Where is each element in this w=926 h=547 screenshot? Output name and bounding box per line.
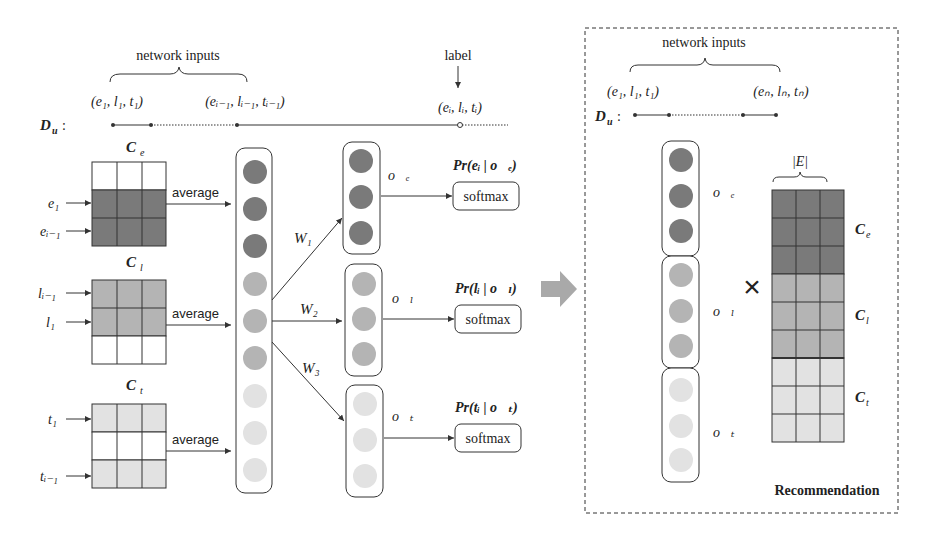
svg-text:C: C [855,389,866,405]
svg-text::: : [617,109,621,124]
svg-text:tᵢ₋₁: tᵢ₋₁ [40,469,58,484]
network-inputs-label: network inputs [136,48,220,63]
svg-text:o⃗ₑ: o⃗ₑ [713,185,735,200]
svg-text:C: C [126,139,137,155]
svg-text:o⃗ₑ: o⃗ₑ [388,168,410,183]
label-text: label [444,48,471,63]
svg-text:l: l [866,315,869,326]
brace-icon [630,58,780,72]
w2-label: W₂ [300,301,318,317]
svg-text:network inputs: network inputs [662,35,746,50]
svg-text:t: t [140,385,143,396]
svg-text:C: C [855,307,866,323]
svg-text:e: e [866,229,871,240]
average-label: average [172,185,219,200]
svg-text::: : [62,118,66,133]
svg-text:C: C [126,254,137,270]
transition-arrow-icon [541,271,577,307]
prob-l: Pr(lᵢ | o⃗ₗ) [455,281,517,297]
hidden-units [243,160,267,482]
svg-text:t₁: t₁ [48,412,57,427]
svg-text:l₁: l₁ [46,315,55,330]
svg-text:e: e [140,147,145,158]
svg-text:eᵢ₋₁: eᵢ₋₁ [40,224,60,239]
tuple-first: (e₁, l₁, t₁) [91,94,143,110]
svg-text:(eₙ, lₙ, tₙ): (eₙ, lₙ, tₙ) [753,84,809,100]
w3-label: W₃ [302,360,320,376]
w1-label: W₁ [294,230,312,246]
multiply-icon: × [743,270,761,303]
svg-text:e₁: e₁ [48,196,59,211]
svg-text:softmax: softmax [463,189,508,204]
svg-text:|E|: |E| [792,154,808,169]
svg-text:(e₁, l₁, t₁): (e₁, l₁, t₁) [607,84,659,100]
diagram-canvas: network inputs (e₁, l₁, t₁) (eᵢ₋₁, lᵢ₋₁,… [0,0,926,547]
svg-text:average: average [172,306,219,321]
svg-text:u: u [52,125,58,136]
svg-text:C: C [126,377,137,393]
matrix-cl [92,280,166,364]
svg-text:l: l [140,262,143,273]
left-model: network inputs (e₁, l₁, t₁) (eᵢ₋₁, lᵢ₋₁,… [38,48,521,497]
prob-e: Pr(eᵢ | o⃗ₑ) [453,158,517,174]
svg-text:softmax: softmax [465,312,510,327]
svg-text:lᵢ₋₁: lᵢ₋₁ [38,286,56,301]
prob-t: Pr(tᵢ | o⃗ₜ) [455,400,518,416]
du-label: D [39,117,51,133]
svg-text:average: average [172,432,219,447]
recommendation-panel: network inputs (e₁, l₁, t₁) (eₙ, lₙ, tₙ)… [585,28,898,513]
svg-text:o⃗ₗ: o⃗ₗ [713,304,734,319]
matrix-ct [92,404,166,488]
svg-text:o⃗ₗ: o⃗ₗ [392,291,413,306]
matrix-ce [92,162,166,246]
tuple-label: (eᵢ, lᵢ, tᵢ) [438,100,482,116]
item-embedding-matrix [772,190,844,442]
recommendation-caption: Recommendation [775,483,880,498]
svg-text:D: D [594,108,606,124]
svg-text:softmax: softmax [465,431,510,446]
svg-text:C: C [855,221,866,237]
svg-text:o⃗ₜ: o⃗ₜ [392,409,414,424]
brace-icon [110,67,247,82]
tuple-prev: (eᵢ₋₁, lᵢ₋₁, tᵢ₋₁) [205,94,285,110]
svg-text:o⃗ₜ: o⃗ₜ [713,425,735,440]
svg-text:t: t [866,397,869,408]
svg-text:u: u [607,116,613,127]
